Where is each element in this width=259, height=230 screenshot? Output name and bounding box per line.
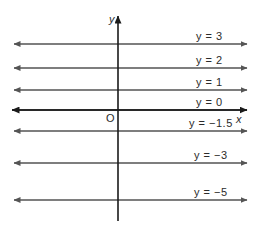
x-axis-label: x — [236, 114, 242, 125]
label-line-y-equals-1: y = 1 — [196, 77, 223, 88]
label-line-y-equals-minus-5: y = −5 — [194, 187, 228, 198]
graph-figure: y = 3 y = 2 y = 1 y = 0 y = −1.5 y = −3 … — [0, 0, 259, 230]
y-axis-label: y — [109, 14, 115, 25]
label-line-y-equals-2: y = 2 — [196, 55, 223, 66]
label-line-y-equals-3: y = 3 — [196, 31, 223, 42]
label-line-y-equals-0: y = 0 — [196, 97, 223, 108]
origin-label: O — [106, 113, 115, 124]
label-line-y-equals-minus-1-5: y = −1.5 — [189, 118, 233, 129]
label-line-y-equals-minus-3: y = −3 — [194, 150, 228, 161]
